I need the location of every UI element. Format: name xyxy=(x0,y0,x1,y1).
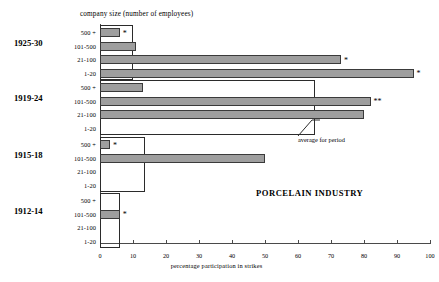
chart-group-title: company size (number of employees) xyxy=(80,10,193,18)
category-label: 21-100 xyxy=(58,224,96,231)
category-label: 101-500 xyxy=(58,155,96,162)
bar xyxy=(100,55,341,64)
x-axis-tick xyxy=(397,240,398,244)
category-label: 21-100 xyxy=(58,111,96,118)
x-axis-tick xyxy=(199,240,200,244)
bar xyxy=(100,83,143,92)
period-label: 1912-14 xyxy=(14,206,43,216)
category-label: 1-20 xyxy=(58,70,96,77)
bar xyxy=(100,69,414,78)
x-axis-label: percentage participation in strikes xyxy=(0,262,433,269)
x-axis-tick xyxy=(364,240,365,244)
x-axis-tick-label: 20 xyxy=(156,252,176,259)
x-axis-tick-label: 90 xyxy=(387,252,407,259)
bar xyxy=(100,210,120,219)
bar xyxy=(100,42,136,51)
category-label: 500 + xyxy=(58,29,96,36)
x-axis-tick-label: 30 xyxy=(189,252,209,259)
category-label: 101-500 xyxy=(58,98,96,105)
x-axis-tick-label: 80 xyxy=(354,252,374,259)
x-axis-tick-label: 10 xyxy=(123,252,143,259)
chart-title: PORCELAIN INDUSTRY xyxy=(256,188,363,198)
bar xyxy=(100,28,120,37)
average-for-period-rect xyxy=(100,193,120,248)
significance-marker: * xyxy=(113,141,117,150)
bar xyxy=(100,110,364,119)
x-axis-tick xyxy=(232,240,233,244)
category-label: 101-500 xyxy=(58,43,96,50)
x-axis-tick xyxy=(298,240,299,244)
significance-marker: * xyxy=(344,56,348,65)
x-axis-tick xyxy=(265,240,266,244)
category-label: 500 + xyxy=(58,141,96,148)
x-axis-tick xyxy=(430,240,431,244)
x-axis-tick xyxy=(133,240,134,244)
bar xyxy=(100,140,110,149)
category-label: 1-20 xyxy=(58,238,96,245)
period-label: 1919-24 xyxy=(14,93,43,103)
x-axis-tick-label: 40 xyxy=(222,252,242,259)
category-label: 1-20 xyxy=(58,182,96,189)
x-axis-tick-label: 60 xyxy=(288,252,308,259)
x-axis-tick-label: 0 xyxy=(90,252,110,259)
x-axis-tick-label: 50 xyxy=(255,252,275,259)
category-label: 21-100 xyxy=(58,168,96,175)
significance-marker: * xyxy=(417,69,421,78)
x-axis-tick-label: 70 xyxy=(321,252,341,259)
x-axis-tick-label: 100 xyxy=(420,252,439,259)
x-axis-tick xyxy=(166,240,167,244)
significance-marker: ** xyxy=(374,97,382,106)
category-label: 500 + xyxy=(58,84,96,91)
bar xyxy=(100,154,265,163)
significance-marker: * xyxy=(123,29,127,38)
category-label: 21-100 xyxy=(58,56,96,63)
period-label: 1915-18 xyxy=(14,150,43,160)
category-label: 101-500 xyxy=(58,211,96,218)
period-label: 1925-30 xyxy=(14,38,43,48)
significance-marker: * xyxy=(123,210,127,219)
bar xyxy=(100,97,371,106)
category-label: 500 + xyxy=(58,197,96,204)
category-label: 1-20 xyxy=(58,125,96,132)
x-axis-tick xyxy=(331,240,332,244)
